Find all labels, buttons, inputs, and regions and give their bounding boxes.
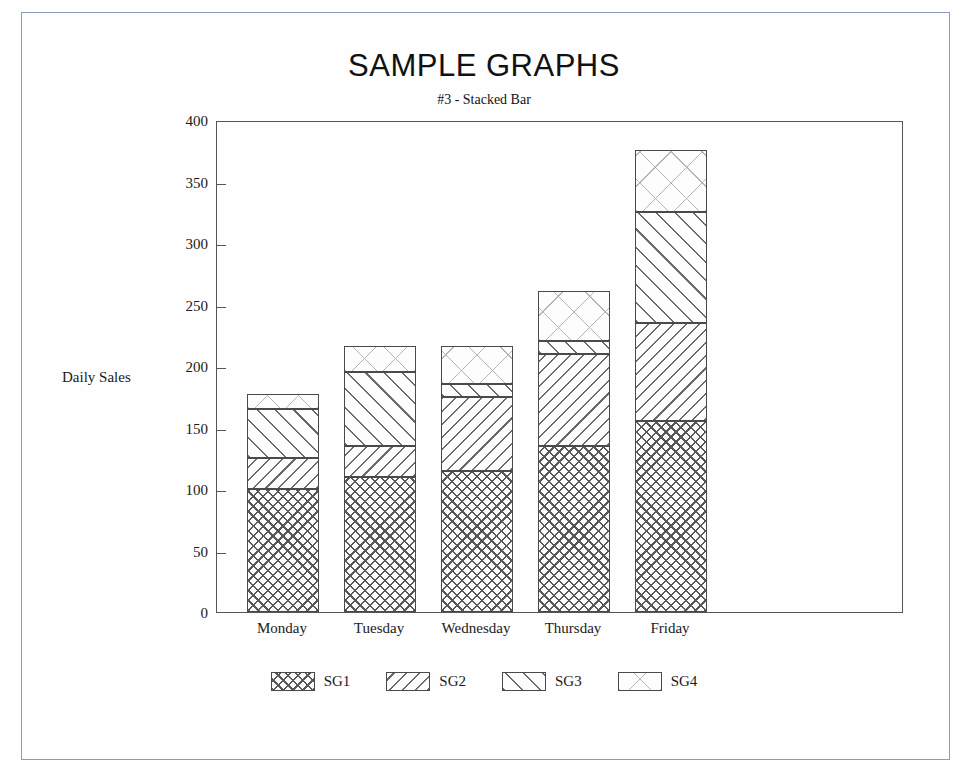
y-axis-tick-mark — [217, 307, 226, 308]
bar-segment-sg4 — [344, 346, 416, 372]
y-axis-tick-mark — [217, 368, 226, 369]
legend-item-sg2[interactable]: SG2 — [386, 672, 466, 691]
chart-subtitle: #3 - Stacked Bar — [0, 92, 968, 108]
bar-segment-sg1 — [344, 477, 416, 612]
legend-swatch-sg1 — [271, 672, 315, 691]
bar-segment-sg4 — [538, 291, 610, 341]
bar-segment-sg2 — [344, 446, 416, 477]
chart-page: SAMPLE GRAPHS #3 - Stacked Bar Daily Sal… — [0, 0, 968, 781]
y-axis-tick-labels: 050100150200250300350400 — [168, 121, 208, 613]
legend-label: SG3 — [555, 673, 582, 690]
stacked-bar — [538, 120, 610, 612]
y-axis-tick-mark — [217, 245, 226, 246]
bar-segment-sg3 — [441, 384, 513, 396]
bar-segment-sg3 — [344, 372, 416, 446]
stacked-bar — [441, 120, 513, 612]
legend-item-sg4[interactable]: SG4 — [618, 672, 698, 691]
bar-segment-sg2 — [635, 323, 707, 421]
plot-area — [216, 121, 903, 613]
y-axis-tick-mark — [217, 184, 226, 185]
bar-segment-sg3 — [538, 341, 610, 353]
bar-segment-sg2 — [538, 354, 610, 446]
y-axis-tick-label: 200 — [186, 359, 209, 376]
bar-segment-sg2 — [441, 397, 513, 471]
x-axis-tick-label: Monday — [257, 620, 307, 637]
bar-segment-sg1 — [247, 489, 319, 612]
stacked-bar — [635, 120, 707, 612]
bar-segment-sg1 — [538, 446, 610, 612]
y-axis-tick-label: 0 — [201, 605, 209, 622]
legend-swatch-sg3 — [502, 672, 546, 691]
y-axis-tick-label: 150 — [186, 420, 209, 437]
legend: SG1SG2SG3SG4 — [0, 672, 968, 691]
bar-segment-sg1 — [635, 421, 707, 612]
legend-label: SG2 — [439, 673, 466, 690]
y-axis-tick-label: 350 — [186, 174, 209, 191]
legend-item-sg1[interactable]: SG1 — [271, 672, 351, 691]
bar-segment-sg4 — [247, 394, 319, 409]
y-axis-tick-label: 50 — [193, 543, 208, 560]
bar-segment-sg4 — [441, 346, 513, 384]
y-axis-label: Daily Sales — [62, 369, 131, 386]
y-axis-tick-mark — [217, 553, 226, 554]
bar-segment-sg3 — [247, 409, 319, 458]
legend-swatch-sg4 — [618, 672, 662, 691]
y-axis-tick-label: 400 — [186, 113, 209, 130]
x-axis-tick-label: Thursday — [545, 620, 602, 637]
stacked-bar — [344, 120, 416, 612]
y-axis-tick-label: 300 — [186, 236, 209, 253]
bar-segment-sg2 — [247, 458, 319, 489]
stacked-bar — [247, 120, 319, 612]
y-axis-tick-mark — [217, 430, 226, 431]
chart-title: SAMPLE GRAPHS — [0, 48, 968, 84]
x-axis-tick-label: Wednesday — [442, 620, 511, 637]
legend-label: SG1 — [324, 673, 351, 690]
bar-segment-sg4 — [635, 150, 707, 213]
x-axis-tick-label: Tuesday — [354, 620, 404, 637]
legend-label: SG4 — [671, 673, 698, 690]
legend-item-sg3[interactable]: SG3 — [502, 672, 582, 691]
legend-swatch-sg2 — [386, 672, 430, 691]
bar-segment-sg1 — [441, 471, 513, 612]
x-axis-tick-label: Friday — [650, 620, 689, 637]
y-axis-tick-mark — [217, 491, 226, 492]
bar-segment-sg3 — [635, 212, 707, 323]
y-axis-tick-label: 250 — [186, 297, 209, 314]
y-axis-tick-label: 100 — [186, 482, 209, 499]
